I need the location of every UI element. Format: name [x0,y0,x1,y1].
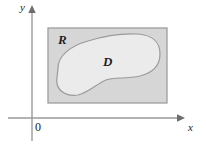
arrow-up-icon [28,5,35,13]
origin-label: 0 [35,121,41,133]
region-d-label: D [103,55,112,68]
y-axis-label: y [20,2,25,13]
arrow-right-icon [177,114,185,121]
region-r-label: R [58,33,67,46]
figure-canvas [0,0,206,147]
math-figure-region-r-d: y x 0 R D [0,0,206,147]
x-axis-label: x [188,122,193,133]
